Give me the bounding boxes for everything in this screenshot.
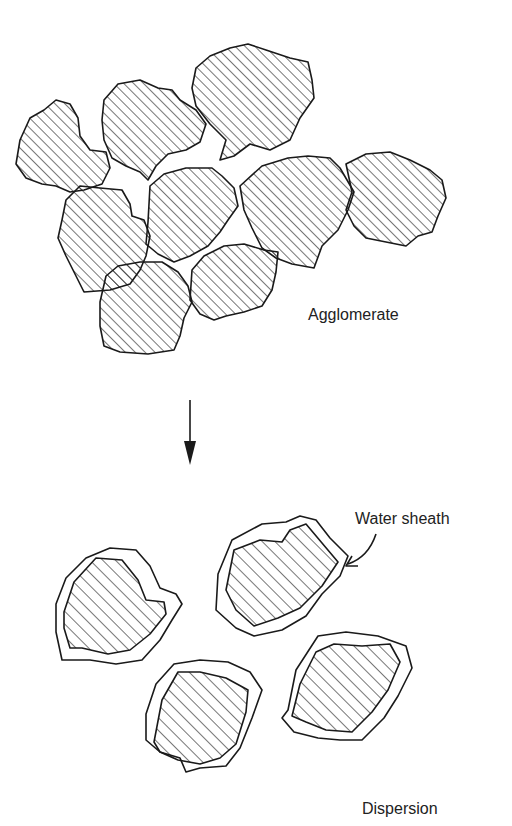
particle-core [226, 524, 338, 626]
agglomerate-label: Agglomerate [308, 306, 399, 324]
particle [346, 152, 446, 246]
particle [192, 44, 314, 160]
diagram-canvas [0, 0, 512, 826]
dispersion-label: Dispersion [362, 800, 438, 818]
arrow-down-icon [184, 400, 196, 465]
particle [100, 262, 192, 354]
dispersed-particle [146, 660, 262, 772]
dispersion-group [56, 516, 412, 772]
particle-core [154, 672, 248, 764]
water-sheath-label: Water sheath [355, 510, 450, 528]
dispersed-particle [56, 548, 182, 664]
dispersed-particle [282, 632, 412, 740]
water-sheath-pointer-arrow [348, 534, 376, 564]
particle [190, 244, 278, 320]
particle [16, 100, 110, 192]
dispersed-particle [216, 516, 348, 636]
particle [102, 80, 206, 180]
particle-core [64, 558, 166, 654]
